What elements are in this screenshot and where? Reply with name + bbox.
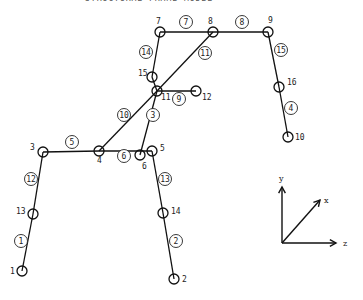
member-10-line [99,91,157,151]
member-5-label: 5 [70,138,75,147]
node-10-label: 10 [295,133,305,142]
node-13-label: 13 [16,207,26,216]
node-15-label: 15 [138,69,148,78]
x-axis-label: x [324,196,329,205]
member-15-label: 15 [276,46,286,55]
node-9-label: 9 [268,16,273,25]
y-axis-label: y [278,174,284,183]
z-axis-label: z [343,239,347,248]
member-13-label: 13 [160,175,170,184]
member-7-label: 7 [184,18,189,27]
member-14-line [152,32,160,77]
coordinate-axes: yxz [278,174,347,248]
member-9-label: 9 [177,95,182,104]
node-3-label: 3 [30,143,35,152]
member-8-label: 8 [240,18,245,27]
node-12-label: 12 [202,93,212,102]
x-axis-line [282,200,320,243]
member-2-label: 2 [174,237,179,246]
node-4-label: 4 [97,156,102,165]
node-14-label: 14 [171,207,181,216]
member-4-label: 4 [289,104,294,113]
member-14-label: 14 [141,48,151,57]
frame-diagram: 12345678910111213141516 1234567891011121… [0,0,363,300]
member-12-label: 12 [26,175,36,184]
member-1-label: 1 [19,237,24,246]
member-11-line [157,32,213,91]
node-1-label: 1 [10,267,15,276]
node-8-label: 8 [208,17,213,26]
member-15-line [268,32,279,87]
member-11-label: 11 [200,49,210,58]
node-7-label: 7 [156,17,161,26]
member-5-line [43,151,99,152]
nodes-layer: 12345678910111213141516 [10,16,305,284]
node-5-label: 5 [160,144,165,153]
node-2-label: 2 [182,275,187,284]
member-10-label: 10 [119,111,129,120]
member-6-label: 6 [122,152,127,161]
node-6-label: 6 [142,162,147,171]
node-16-label: 16 [287,78,297,87]
member-3-label: 3 [151,111,156,120]
node-11-label: 11 [161,93,171,102]
member-labels-layer: 123456789101112131415 [15,16,298,248]
